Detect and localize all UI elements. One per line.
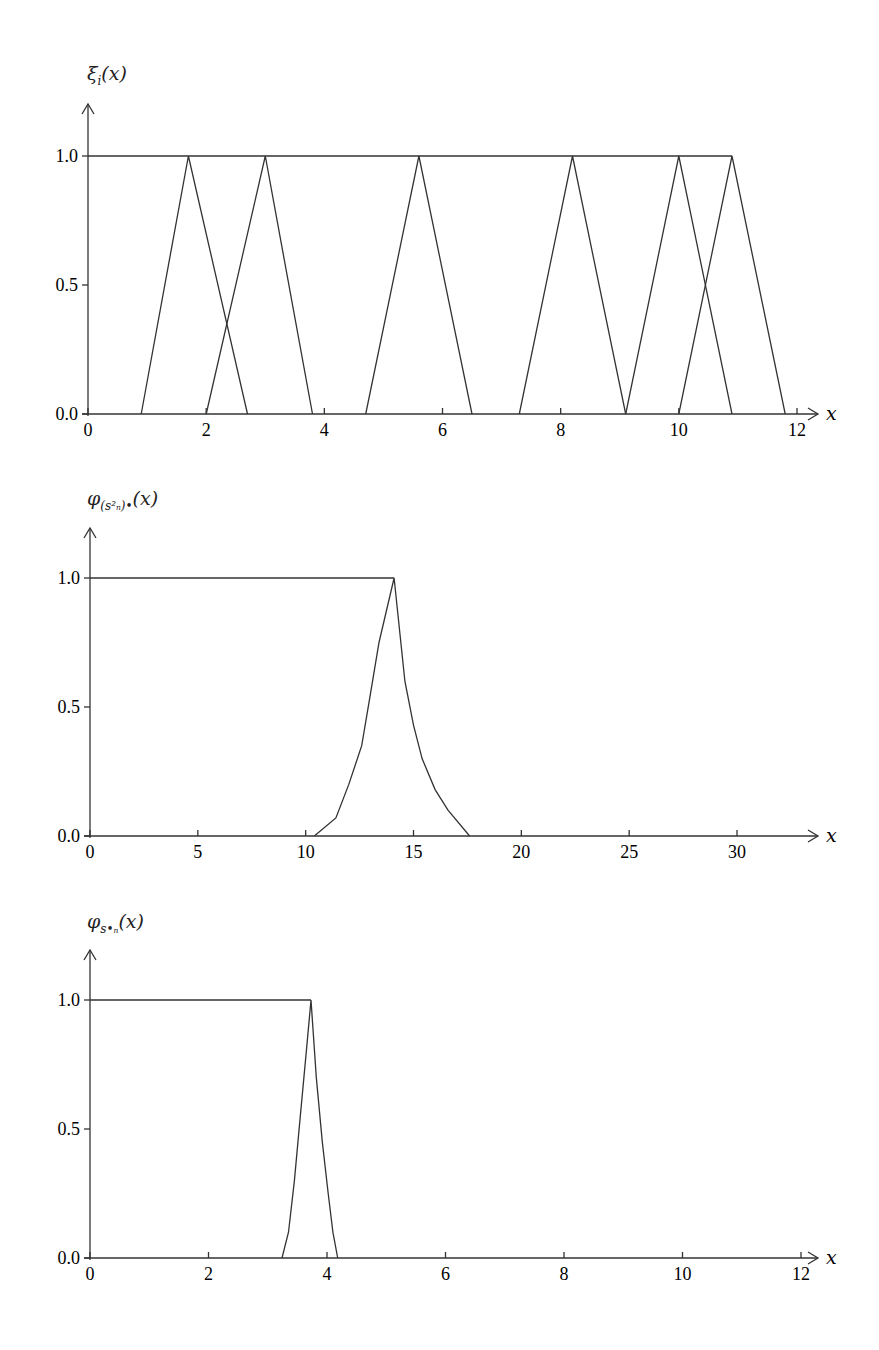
y-tick-label: 0.5: [58, 1119, 81, 1139]
x-tick-label: 4: [323, 1264, 332, 1284]
x-tick-label: 10: [674, 1264, 692, 1284]
x-tick-label: 8: [560, 1264, 569, 1284]
x-axis-label: x: [826, 1246, 837, 1268]
x-tick-label: 2: [204, 1264, 213, 1284]
y-tick-label: 0.0: [58, 1248, 81, 1268]
x-tick-label: 0: [86, 1264, 95, 1284]
x-tick-label: 12: [792, 1264, 810, 1284]
y-tick-label: 1.0: [58, 990, 81, 1010]
chart3-plot: x0246810120.00.51.0: [0, 0, 879, 1350]
series-line-membership: [282, 1000, 338, 1258]
x-tick-label: 6: [441, 1264, 450, 1284]
